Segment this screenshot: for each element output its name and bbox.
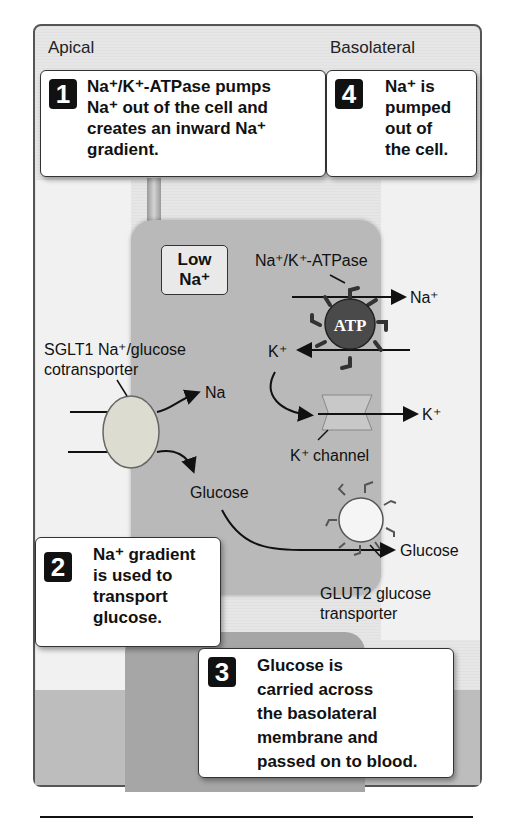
step-3-box: 3 Glucose iscarried acrossthe basolatera… (198, 648, 454, 778)
low-na-line1: Low (162, 250, 227, 270)
step-1-badge: 1 (49, 79, 77, 109)
low-na-line2: Na⁺ (162, 270, 227, 290)
step-2-badge: 2 (44, 552, 72, 582)
k-in-label: K⁺ (268, 342, 287, 361)
glucose-out-label: Glucose (400, 541, 459, 560)
low-na-box: Low Na⁺ (161, 245, 228, 295)
step-3-badge: 3 (208, 657, 236, 687)
step-1-box: 1 Na⁺/K⁺-ATPase pumpsNa⁺ out of the cell… (40, 70, 326, 177)
step-4-text: Na⁺ ispumpedout ofthe cell. (385, 76, 451, 160)
step-4-box: 4 Na⁺ ispumpedout ofthe cell. (326, 70, 477, 177)
step-2-box: 2 Na⁺ gradientis used totransportglucose… (35, 537, 221, 647)
svg-text:ATP: ATP (334, 316, 367, 335)
bottom-rule (40, 816, 473, 818)
k-out-label: K⁺ (422, 405, 441, 424)
k-channel-label: K⁺ channel (290, 446, 369, 465)
sglt1-label-line1: SGLT1 Na⁺/glucose (44, 340, 186, 359)
step-2-text: Na⁺ gradientis used totransportglucose. (93, 544, 196, 628)
step-3-text: Glucose iscarried acrossthe basolateralm… (257, 654, 418, 774)
step-4-badge: 4 (335, 79, 363, 109)
atpase-label: Na⁺/K⁺-ATPase (255, 251, 368, 270)
step-1-text: Na⁺/K⁺-ATPase pumpsNa⁺ out of the cell a… (87, 76, 271, 160)
sglt1-label-line2: cotransporter (44, 360, 138, 379)
na-in-label: Na (205, 383, 225, 402)
glut2-label-line2: transporter (320, 604, 397, 623)
na-out-label: Na⁺ (410, 288, 438, 307)
glut2-label-line1: GLUT2 glucose (320, 584, 431, 603)
glucose-in-label: Glucose (190, 483, 249, 502)
